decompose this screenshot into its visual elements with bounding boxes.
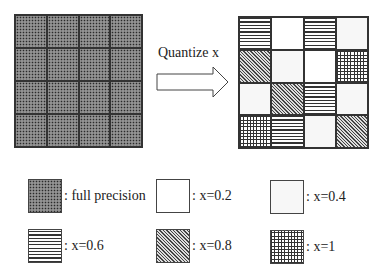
grid-cell-full — [79, 48, 111, 81]
grid-cell-x04 — [336, 17, 368, 50]
grid-cell-x04 — [304, 115, 336, 148]
grid-cell-full — [79, 15, 111, 48]
legend-x-0-4: : x=0.4 — [270, 180, 346, 214]
grid-cell-x06 — [304, 17, 336, 50]
grid-cell-x04 — [271, 50, 303, 83]
legend-label: : x=0.6 — [64, 238, 104, 254]
grid-cell-x04 — [239, 83, 271, 116]
grid-cell-x1 — [239, 115, 271, 148]
grid-cell-full — [47, 15, 79, 48]
grid-cell-full — [47, 81, 79, 114]
legend-x-1: : x=1 — [270, 230, 335, 264]
grid-cell-full — [110, 48, 142, 81]
x-0-4-swatch — [270, 180, 304, 214]
legend-x-0-8: : x=0.8 — [156, 229, 232, 263]
grid-cell-x08 — [336, 115, 368, 148]
x-0-2-swatch — [156, 179, 190, 213]
right-arrow-icon — [156, 66, 230, 98]
grid-cell-full — [110, 114, 142, 147]
grid-cell-full — [15, 81, 47, 114]
full-precision-grid — [14, 14, 143, 148]
x-0-8-swatch — [156, 229, 190, 263]
grid-cell-x06 — [271, 115, 303, 148]
legend-label: : x=0.8 — [192, 238, 232, 254]
grid-cell-full — [79, 114, 111, 147]
legend-label: : full precision — [64, 188, 146, 204]
legend-label: : x=1 — [306, 239, 335, 255]
x-0-6-swatch — [28, 229, 62, 263]
grid-cell-full — [15, 48, 47, 81]
x-1-swatch — [270, 230, 304, 264]
grid-cell-x02 — [304, 50, 336, 83]
legend-label: : x=0.4 — [306, 189, 346, 205]
grid-cell-x06 — [304, 83, 336, 116]
grid-cell-x08 — [239, 50, 271, 83]
grid-cell-full — [110, 81, 142, 114]
grid-cell-x06 — [239, 17, 271, 50]
quantized-grid — [238, 16, 369, 149]
grid-cell-full — [15, 15, 47, 48]
grid-cell-full — [79, 81, 111, 114]
grid-cell-x04 — [336, 83, 368, 116]
legend-label: : x=0.2 — [192, 188, 232, 204]
grid-cell-full — [15, 114, 47, 147]
legend-x-0-6: : x=0.6 — [28, 229, 104, 263]
grid-cell-full — [47, 114, 79, 147]
grid-cell-full — [47, 48, 79, 81]
legend-x-0-2: : x=0.2 — [156, 179, 232, 213]
grid-cell-x1 — [336, 50, 368, 83]
quantize-label: Quantize x — [158, 45, 219, 61]
grid-cell-full — [110, 15, 142, 48]
grid-cell-x02 — [271, 17, 303, 50]
legend-full-precision: : full precision — [28, 179, 146, 213]
full-precision-swatch — [28, 179, 62, 213]
grid-cell-x08 — [271, 83, 303, 116]
